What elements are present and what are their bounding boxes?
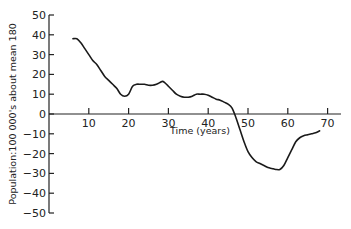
y-tick-label: 30 (32, 49, 46, 62)
x-tick-label: 50 (241, 117, 255, 130)
y-tick-label: −20 (23, 148, 46, 161)
y-tick-label: 20 (32, 68, 46, 81)
y-tick-label: −50 (23, 207, 46, 220)
x-tick-label: 20 (122, 117, 136, 130)
y-tick-label: 10 (32, 88, 46, 101)
x-tick-label: 70 (321, 117, 335, 130)
x-axis-label: Time (years) (169, 125, 230, 136)
x-tick-label: 10 (82, 117, 96, 130)
y-tick-label: 0 (39, 108, 46, 121)
y-tick-label: −10 (23, 128, 46, 141)
y-tick-label: −40 (23, 187, 46, 200)
series-line-population (73, 38, 320, 169)
line-chart: 50403020100−10−20−30−40−50 1020304050607… (0, 0, 351, 229)
y-axis-label: Population:100 000's about mean 180 (7, 23, 18, 205)
x-tick-label: 60 (281, 117, 295, 130)
y-tick-label: 40 (32, 29, 46, 42)
series-group (73, 38, 320, 169)
y-tick-label: 50 (32, 9, 46, 22)
y-tick-label: −30 (23, 167, 46, 180)
